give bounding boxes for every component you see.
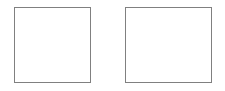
right-rectangle-content — [126, 8, 211, 82]
left-rectangle[interactable] — [14, 7, 91, 83]
canvas-root — [0, 0, 225, 91]
left-rectangle-content — [15, 8, 90, 82]
right-rectangle[interactable] — [125, 7, 212, 83]
